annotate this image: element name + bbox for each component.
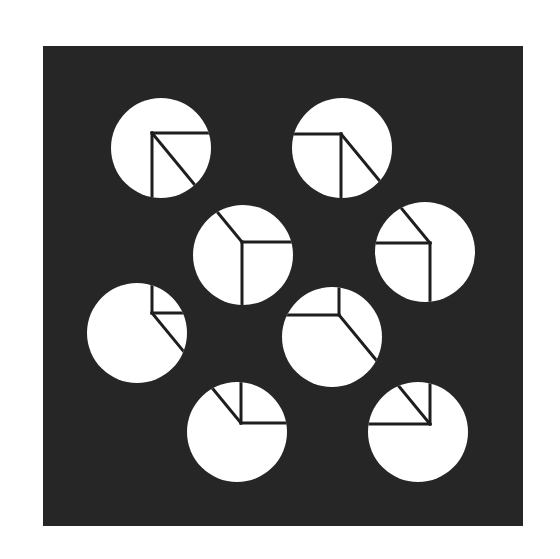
- white-disc: [187, 382, 287, 482]
- white-disc: [375, 202, 475, 302]
- white-disc: [282, 287, 382, 387]
- white-disc: [111, 98, 211, 198]
- white-disc: [87, 283, 187, 383]
- white-disc: [368, 382, 468, 482]
- illusory-cube-figure: [0, 0, 560, 559]
